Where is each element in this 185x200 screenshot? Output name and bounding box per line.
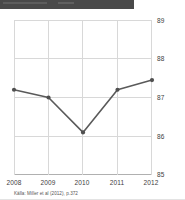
x-axis-tick-label: 2012 bbox=[144, 179, 159, 186]
y-axis-tick-label: 85 bbox=[157, 171, 164, 178]
y-axis-tick-label: 87 bbox=[157, 94, 164, 101]
x-axis-tick-label: 2011 bbox=[110, 179, 124, 186]
y-axis-tick-label: 88 bbox=[157, 55, 164, 62]
plot-area bbox=[14, 20, 152, 175]
x-axis-tick-label: 2010 bbox=[75, 179, 90, 186]
series-polyline bbox=[14, 80, 152, 132]
series-markers bbox=[12, 78, 154, 135]
data-point-marker bbox=[115, 88, 119, 92]
header-bar-accent bbox=[3, 2, 47, 4]
x-axis-tick-label: 2009 bbox=[41, 179, 56, 186]
data-point-marker bbox=[12, 88, 16, 92]
x-axis-tick-label: 2008 bbox=[7, 179, 22, 186]
top-header-bar bbox=[0, 0, 134, 9]
bottom-divider bbox=[0, 199, 185, 200]
data-point-marker bbox=[150, 78, 154, 82]
header-bar-accent-secondary bbox=[58, 2, 74, 4]
data-series-line bbox=[14, 20, 152, 175]
y-axis-tick-label: 89 bbox=[157, 17, 164, 24]
source-caption: Källa: Miller et al (2012), p.372 bbox=[14, 191, 78, 196]
data-point-marker bbox=[81, 130, 85, 134]
y-axis-tick-label: 86 bbox=[157, 133, 164, 140]
line-chart-figure: 89 88 87 86 85 2008 2009 2010 2011 2012 … bbox=[0, 9, 185, 200]
data-point-marker bbox=[46, 95, 50, 99]
